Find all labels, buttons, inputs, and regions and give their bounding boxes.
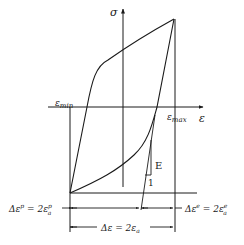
plastic-strain-label: Δεp = 2εpa: [8, 202, 52, 216]
elastic-strain-label: Δεe = 2εea: [184, 202, 228, 216]
slope-e-label: E: [155, 160, 162, 171]
epsilon-label: ε: [199, 112, 205, 125]
eps-min-label: εmin: [55, 98, 74, 110]
slope-one-label: 1: [148, 178, 154, 188]
eps-max-label: εmax: [167, 112, 187, 124]
hysteresis-diagram: σ ε εmin εmax E 1 Δεp = 2εpa Δεe = 2εea …: [0, 0, 244, 245]
sigma-label: σ: [110, 6, 118, 19]
elastic-slope-line: [141, 115, 155, 210]
total-strain-label: Δε = 2εa: [100, 223, 140, 234]
